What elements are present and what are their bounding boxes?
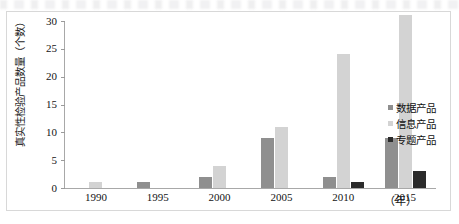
bar-数据产品-1995[interactable] (137, 182, 150, 188)
legend-label: 数据产品 (396, 100, 436, 115)
y-axis-title: 真实性检验产品数量（个数） (12, 7, 28, 157)
bar-信息产品-2010[interactable] (337, 54, 350, 188)
chart-frame: 真实性检验产品数量（个数） 302520151050 1990199520002… (6, 11, 451, 211)
bar-group-2005 (261, 21, 302, 188)
legend-item-数据产品[interactable]: 数据产品 (388, 100, 436, 115)
plot-area (65, 21, 436, 188)
y-tick-label: 5 (35, 155, 57, 166)
bar-数据产品-2005[interactable] (261, 138, 274, 188)
legend-item-专题产品[interactable]: 专题产品 (388, 132, 436, 147)
x-axis-line (64, 188, 436, 189)
bar-信息产品-2000[interactable] (213, 166, 226, 188)
y-tick-label: 20 (35, 71, 57, 82)
y-tick-label: 0 (35, 183, 57, 194)
legend-label: 信息产品 (396, 116, 436, 131)
chart-plot-wrapper: 真实性检验产品数量（个数） 302520151050 1990199520002… (7, 12, 452, 212)
x-tick-label-1990: 1990 (65, 192, 127, 203)
legend-swatch-icon (388, 121, 393, 126)
bar-group-2000 (199, 21, 240, 188)
legend-item-信息产品[interactable]: 信息产品 (388, 116, 436, 131)
x-tick-label-2000: 2000 (189, 192, 251, 203)
bar-group-2010 (323, 21, 364, 188)
y-tick-mark (61, 188, 65, 189)
bar-专题产品-2015[interactable] (413, 171, 426, 188)
bar-数据产品-2010[interactable] (323, 177, 336, 188)
bar-信息产品-1990[interactable] (89, 182, 102, 188)
x-axis-unit-label: （年） (384, 192, 417, 208)
bar-group-1995 (137, 21, 178, 188)
y-tick-label: 10 (35, 127, 57, 138)
y-tick-label: 25 (35, 43, 57, 54)
bar-group-1990 (75, 21, 116, 188)
legend-swatch-icon (388, 137, 393, 142)
x-tick-label-2010: 2010 (312, 192, 374, 203)
scan-artifact-strip (0, 0, 459, 9)
y-tick-label: 30 (35, 16, 57, 27)
bar-数据产品-2000[interactable] (199, 177, 212, 188)
x-tick-label-2005: 2005 (251, 192, 313, 203)
y-tick-label: 15 (35, 99, 57, 110)
bar-信息产品-2005[interactable] (275, 127, 288, 188)
legend-label: 专题产品 (396, 132, 436, 147)
bar-专题产品-2010[interactable] (351, 182, 364, 188)
x-tick-label-1995: 1995 (127, 192, 189, 203)
legend-swatch-icon (388, 105, 393, 110)
chart-legend: 数据产品信息产品专题产品 (388, 100, 436, 148)
